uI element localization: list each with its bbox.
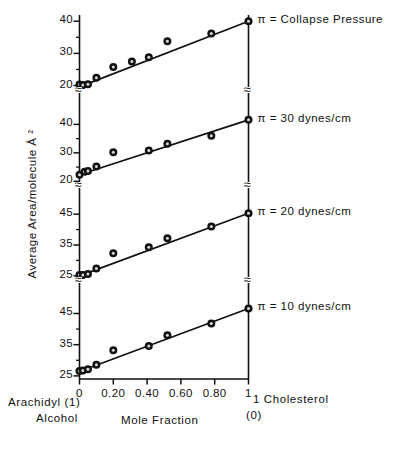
figure-container: Average Area/molecule Å ² 00.200.400.600… (0, 0, 408, 451)
fit-line (80, 120, 249, 175)
data-point-center (86, 368, 89, 371)
x-axis-left-corner-label-line1: Arachidyl (1) (8, 396, 80, 408)
fit-line (80, 21, 249, 87)
y-axis-tick-label: 30 (47, 45, 73, 57)
data-point-center (95, 165, 98, 168)
data-point-center (147, 149, 150, 152)
data-point-center (147, 344, 150, 347)
data-point-center (112, 349, 115, 352)
data-point-center (247, 118, 250, 121)
axis-break-symbol: ≈ (244, 87, 251, 93)
axis-break-symbol: ≈ (75, 182, 82, 188)
data-point-center (95, 363, 98, 366)
y-axis-tick-label: 30 (47, 145, 73, 157)
data-point-center (112, 151, 115, 154)
y-axis-tick-label: 40 (47, 13, 73, 25)
data-point-center (210, 225, 213, 228)
panel-label-2: π = 20 dynes/cm (258, 205, 352, 217)
data-point-center (210, 322, 213, 325)
data-point-center (81, 83, 84, 86)
panel-label-1: π = 30 dynes/cm (258, 112, 352, 124)
x-axis-tick-label: 0.80 (198, 387, 232, 399)
data-point-center (210, 32, 213, 35)
x-axis-tick-label: 0.40 (130, 387, 164, 399)
axis-break-symbol: ≈ (75, 277, 82, 283)
axis-break-symbol: ≈ (244, 277, 251, 283)
y-axis-tick-label: 25 (47, 368, 73, 380)
x-axis-title: Mole Fraction (121, 414, 198, 426)
y-axis-tick-label: 45 (47, 206, 73, 218)
data-point-center (210, 134, 213, 137)
x-axis-right-corner-label-line1: 1 Cholesterol (253, 393, 329, 405)
data-point-center (112, 65, 115, 68)
y-axis-tick-label: 25 (47, 268, 73, 280)
data-point-center (130, 60, 133, 63)
x-axis-right-corner-label-line2: (0) (246, 409, 262, 421)
data-point-center (95, 76, 98, 79)
data-point-center (95, 267, 98, 270)
y-axis-tick-label: 20 (47, 173, 73, 185)
axis-break-symbol: ≈ (244, 182, 251, 188)
y-axis-tick-label: 45 (47, 305, 73, 317)
data-point-center (166, 142, 169, 145)
data-point-center (81, 369, 84, 372)
data-point-center (147, 246, 150, 249)
y-axis-tick-label: 35 (47, 337, 73, 349)
data-point-center (112, 252, 115, 255)
y-axis-tick-label: 35 (47, 237, 73, 249)
data-point-center (86, 83, 89, 86)
fit-line (80, 213, 249, 276)
data-point-center (86, 170, 89, 173)
fit-line (80, 308, 249, 371)
data-point-center (247, 307, 250, 310)
data-point-center (86, 272, 89, 275)
axis-break-symbol: ≈ (75, 87, 82, 93)
data-point-center (247, 212, 250, 215)
data-point-center (166, 237, 169, 240)
data-point-center (166, 40, 169, 43)
panel-label-3: π = 10 dynes/cm (258, 300, 352, 312)
panel-label-0: π = Collapse Pressure (258, 13, 384, 25)
data-point-center (81, 273, 84, 276)
data-point-center (166, 334, 169, 337)
x-axis-left-corner-label-line2: Alcohol (36, 412, 78, 424)
y-axis-tick-label: 40 (47, 116, 73, 128)
y-axis-tick-label: 20 (47, 78, 73, 90)
plot-canvas (0, 0, 408, 451)
data-point-center (247, 20, 250, 23)
data-point-center (147, 56, 150, 59)
x-axis-tick-label: 0.20 (96, 387, 130, 399)
x-axis-tick-label: 0.60 (164, 387, 198, 399)
data-point-center (78, 173, 81, 176)
